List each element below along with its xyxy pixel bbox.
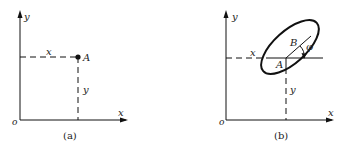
panel-b-origin-label: o — [219, 118, 224, 127]
panel-b-point-a-label: A — [276, 60, 283, 70]
panel-b-y-axis-label: y — [232, 12, 238, 22]
panel-a-x-arrow-icon — [120, 118, 128, 123]
panel-b-x-arrow-icon — [326, 118, 334, 123]
panel-b-y-arrow-icon — [224, 10, 229, 18]
panel-a-point-label: A — [83, 53, 90, 63]
panel-b-y-dim-label: y — [290, 85, 296, 95]
panel-a-y-arrow-icon — [18, 10, 23, 18]
panel-a-origin-label: o — [12, 118, 17, 127]
panel-a-point-a-icon — [75, 54, 80, 59]
panel-b-point-b-label: B — [290, 38, 297, 48]
panel-a-y-axis-label: y — [24, 12, 30, 22]
panel-a-y-dim-label: y — [83, 85, 89, 95]
panel-b-caption: (b) — [274, 131, 288, 141]
panel-b-angle-label: φ — [306, 42, 313, 52]
panel-b-x-axis-label: x — [328, 108, 334, 118]
panel-a-x-axis-label: x — [118, 108, 124, 118]
diagram-canvas — [0, 0, 345, 152]
panel-b-x-dim-label: x — [250, 48, 256, 58]
panel-a-caption: (a) — [63, 131, 77, 141]
panel-a-x-dim-label: x — [46, 47, 52, 57]
